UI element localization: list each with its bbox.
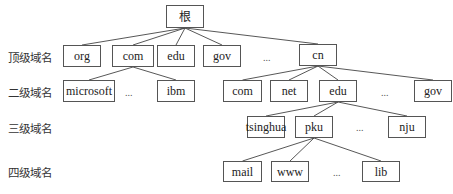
node-org: org [63,45,101,67]
ellipsis: ... [125,87,133,98]
edge [82,28,185,45]
node-cn: cn [299,44,337,66]
edge [338,102,407,116]
node-pku: pku [295,116,333,138]
edge [185,28,318,44]
level-label: 顶级域名 [8,49,52,65]
level-label: 四级域名 [8,164,52,180]
node-root: 根 [166,5,204,28]
node-microsoft: microsoft [63,80,115,102]
edge [133,67,176,80]
level-label: 二级域名 [8,84,52,100]
level-label: 三级域名 [8,120,52,136]
ellipsis: ... [333,167,341,178]
edge [243,138,315,161]
node-cn-net: net [270,80,308,102]
node-cn-com: com [223,80,262,102]
node-cn-edu: edu [319,80,357,102]
ellipsis: ... [263,52,271,63]
node-mail: mail [223,161,262,182]
edge [243,66,319,80]
node-com: com [112,45,154,67]
ellipsis: ... [356,122,364,133]
node-cn-gov: gov [414,80,452,102]
edge [289,66,318,80]
node-nju: nju [388,116,426,138]
node-lib: lib [362,161,400,182]
node-www: www [271,161,309,182]
edge [314,138,381,161]
node-edu: edu [157,45,195,67]
edge [266,102,338,116]
node-ibm: ibm [157,80,195,102]
node-tsinghua: tsinghua [247,116,285,138]
ellipsis: ... [381,87,389,98]
edge [89,67,133,80]
node-gov: gov [203,45,241,67]
